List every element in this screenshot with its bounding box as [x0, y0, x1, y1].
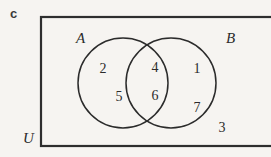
venn-element-6: 6	[148, 89, 162, 103]
venn-element-5: 5	[112, 90, 126, 104]
venn-element-2: 2	[96, 62, 110, 76]
set-a-label: A	[76, 30, 85, 47]
venn-diagram-figure: c A B U 2546173	[0, 0, 271, 157]
set-a-circle	[78, 38, 168, 128]
venn-diagram-graphic	[0, 0, 271, 157]
set-b-label: B	[226, 30, 235, 47]
universal-set-label: U	[23, 130, 34, 147]
venn-element-4: 4	[148, 61, 162, 75]
venn-element-1: 1	[190, 62, 204, 76]
venn-element-7: 7	[190, 101, 204, 115]
venn-element-3: 3	[215, 121, 229, 135]
